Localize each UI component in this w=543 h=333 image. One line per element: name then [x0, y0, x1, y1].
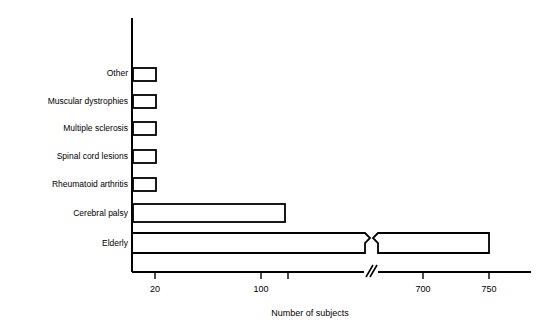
category-label-other: Other — [107, 68, 128, 78]
x-tick-label-700: 700 — [403, 284, 443, 295]
x-tick-label-20: 20 — [135, 284, 175, 295]
bar-rheumatoid-arthritis — [133, 178, 156, 191]
bar-other — [133, 68, 156, 81]
x-tick-label-100: 100 — [241, 284, 281, 295]
category-label-elderly: Elderly — [102, 238, 128, 248]
x-axis-title: Number of subjects — [230, 308, 390, 319]
category-label-muscular-dystrophies: Muscular dystrophies — [48, 96, 128, 106]
category-label-cerebral-palsy: Cerebral palsy — [73, 208, 128, 218]
bar-spinal-cord-lesions — [133, 150, 156, 163]
category-label-rheumatoid-arthritis: Rheumatoid arthritis — [52, 179, 128, 189]
category-label-spinal-cord-lesions: Spinal cord lesions — [57, 151, 128, 161]
x-tick-label-750: 750 — [469, 284, 509, 295]
axis-break-icon — [364, 265, 378, 277]
bar-muscular-dystrophies — [133, 95, 156, 108]
bar-cerebral-palsy — [133, 204, 285, 222]
bar-chart: Other Muscular dystrophies Multiple scle… — [0, 0, 543, 333]
bar-multiple-sclerosis — [133, 122, 156, 135]
bar-elderly — [133, 233, 489, 253]
category-label-multiple-sclerosis: Multiple sclerosis — [63, 123, 128, 133]
